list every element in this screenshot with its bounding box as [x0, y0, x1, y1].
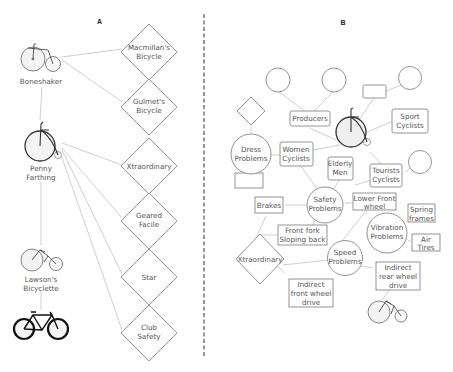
artifact-gulmets-bicycle[interactable]: Gulmet's Bicycle [121, 79, 177, 135]
group-women-cyclists[interactable]: Women Cyclists [280, 142, 313, 166]
empty-circle-node [322, 68, 346, 92]
boneshaker-icon [21, 44, 61, 72]
svg-text:Tires: Tires [416, 243, 434, 252]
panel-a-label: A [97, 18, 102, 25]
empty-circle-node [266, 68, 290, 92]
svg-text:frames: frames [409, 214, 434, 223]
svg-text:Tourists: Tourists [371, 166, 400, 175]
solution-spring-frames[interactable]: Spring frames [408, 204, 435, 223]
svg-text:Problems: Problems [370, 232, 403, 241]
artifact-club-safety[interactable]: Club Safety [121, 305, 177, 361]
svg-text:rear wheel: rear wheel [379, 272, 417, 281]
solution-indirect-front-wheel-drive[interactable]: Indirect front wheel drive [289, 279, 333, 307]
penny-farthing-label-line2: Farthing [26, 173, 55, 182]
svg-text:drive: drive [389, 281, 408, 290]
svg-text:Xtraordinary: Xtraordinary [237, 255, 283, 264]
panel-a-artifacts: Macmillan's Bicycle Gulmet's Bicycle Xtr… [121, 24, 177, 361]
artifact-star[interactable]: Star [121, 249, 177, 305]
empty-rect-node [363, 85, 386, 98]
lawsons-bicyclette-label-line2: Bicyclette [23, 284, 59, 293]
svg-text:Geared: Geared [136, 211, 162, 220]
penny-farthing-icon [25, 122, 62, 161]
svg-text:Club: Club [141, 323, 158, 332]
lawsons-bicyclette-small-icon [368, 301, 407, 323]
problem-speed[interactable]: Speed Problems [328, 241, 363, 276]
group-elderly-men[interactable]: Elderly Men [328, 157, 353, 180]
svg-text:wheel: wheel [364, 202, 385, 211]
boneshaker-label: Boneshaker [20, 77, 62, 86]
svg-text:Facile: Facile [139, 220, 160, 229]
lawsons-bicyclette-icon [21, 249, 63, 271]
svg-text:Xtraordinary: Xtraordinary [126, 162, 172, 171]
svg-text:Indirect: Indirect [384, 263, 411, 272]
svg-text:Problems: Problems [234, 154, 267, 163]
panel-b-label: B [340, 19, 345, 26]
solution-indirect-rear-wheel-drive[interactable]: Indirect rear wheel drive [376, 262, 420, 290]
group-tourists-cyclists[interactable]: Tourists Cyclists [370, 164, 402, 187]
safety-bicycle-icon [14, 312, 68, 339]
svg-text:Men: Men [332, 168, 347, 177]
artifact-macmillans-bicycle[interactable]: Macmillan's Bicycle [121, 24, 177, 80]
svg-text:Safety: Safety [314, 195, 338, 204]
svg-text:Women: Women [282, 145, 309, 154]
svg-text:Bicycle: Bicycle [136, 106, 162, 115]
artifact-xtraordinary[interactable]: Xtraordinary [121, 138, 177, 194]
solution-lower-front-wheel[interactable]: Lower Front wheel [353, 193, 396, 211]
svg-text:Gulmet's: Gulmet's [133, 97, 165, 106]
svg-text:Problems: Problems [308, 204, 341, 213]
solution-brakes[interactable]: Brakes [255, 197, 283, 213]
svg-text:Brakes: Brakes [257, 201, 282, 210]
lawsons-bicyclette-label-line1: Lawson's [25, 275, 58, 284]
svg-text:Cyclists: Cyclists [282, 154, 310, 163]
empty-circle-node [409, 151, 432, 174]
bicycle-sociotechnical-diagram: A Boneshaker Penny Farthing Lawson's Bic… [0, 0, 453, 372]
svg-text:Macmillan's: Macmillan's [128, 43, 170, 52]
svg-text:Sport: Sport [400, 112, 419, 121]
central-penny-farthing-icon [336, 108, 371, 147]
svg-text:Sloping back: Sloping back [280, 235, 327, 244]
svg-text:Star: Star [142, 273, 157, 282]
artifact-xtraordinary-b[interactable]: Xtraordinary [236, 234, 284, 284]
problem-safety[interactable]: Safety Problems [307, 187, 343, 223]
group-producers[interactable]: Producers [290, 111, 330, 126]
artifact-geared-facile[interactable]: Geared Facile [121, 193, 177, 249]
svg-text:Speed: Speed [334, 248, 357, 257]
empty-diamond-node [237, 97, 265, 125]
svg-text:Front fork: Front fork [285, 226, 320, 235]
solution-front-fork-sloping-back[interactable]: Front fork Sloping back [278, 225, 327, 245]
svg-text:Safety: Safety [138, 332, 162, 341]
penny-farthing-label-line1: Penny [30, 164, 53, 173]
problem-vibration[interactable]: Vibration Problems [367, 213, 407, 253]
svg-text:front wheel: front wheel [291, 289, 332, 298]
svg-text:Problems: Problems [328, 257, 361, 266]
svg-text:Indirect: Indirect [297, 280, 324, 289]
svg-text:Cyclists: Cyclists [396, 121, 424, 130]
svg-text:Bicycle: Bicycle [136, 52, 162, 61]
svg-text:Cyclists: Cyclists [372, 175, 400, 184]
empty-rect-node [235, 173, 263, 188]
svg-text:drive: drive [302, 298, 321, 307]
svg-text:Dress: Dress [241, 145, 261, 154]
group-sport-cyclists[interactable]: Sport Cyclists [392, 109, 428, 133]
svg-text:Vibration: Vibration [371, 223, 403, 232]
empty-circle-node [399, 67, 422, 90]
problem-dress[interactable]: Dress Problems [231, 134, 271, 174]
svg-text:Elderly: Elderly [328, 159, 353, 168]
svg-text:Producers: Producers [292, 114, 328, 123]
solution-air-tires[interactable]: Air Tires [412, 234, 440, 252]
